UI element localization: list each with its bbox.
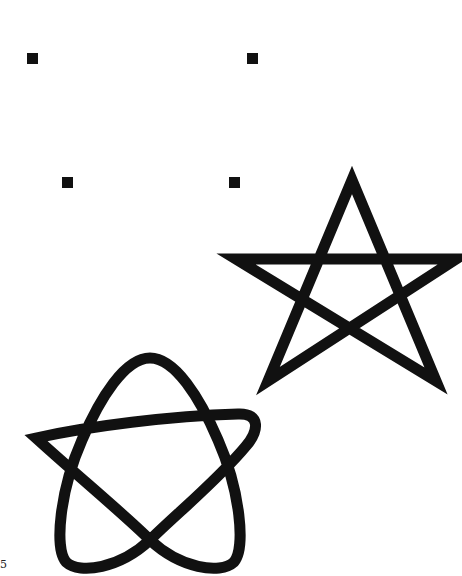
- straight-pentagram: [236, 180, 456, 381]
- curved-pentagram: [36, 358, 256, 568]
- figure-canvas: 5: [0, 0, 462, 576]
- page-number: 5: [0, 559, 7, 571]
- shapes-svg: [0, 0, 462, 576]
